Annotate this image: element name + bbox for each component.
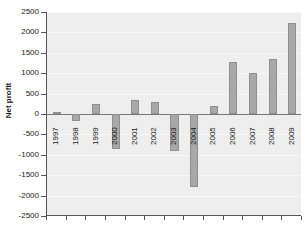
y-axis-tick-label: -2500 (0, 212, 39, 220)
x-axis-tick-label: 2004 (190, 127, 198, 145)
y-axis-tick-label: 2500 (0, 8, 39, 16)
gridline (47, 32, 301, 33)
gridline (47, 175, 301, 176)
bar (151, 102, 159, 114)
x-axis-tick-label: 1997 (52, 127, 60, 145)
x-axis-tick-label: 2009 (288, 127, 296, 145)
y-axis-tick-label: 2000 (0, 28, 39, 36)
gridline (47, 73, 301, 74)
x-axis-tick (301, 216, 302, 220)
bar-chart: Net profit 25002000150010005000-500-1000… (0, 0, 307, 228)
x-axis-tick-label: 2005 (209, 127, 217, 145)
x-axis-tick (262, 216, 263, 220)
y-axis-tick-label: -500 (0, 130, 39, 138)
x-axis-tick (85, 216, 86, 220)
x-axis-tick-label: 2003 (170, 127, 178, 145)
bar (269, 59, 277, 114)
gridline (47, 12, 301, 13)
gridline (47, 94, 301, 95)
bar (249, 73, 257, 114)
x-axis-tick-label: 1998 (72, 127, 80, 145)
x-axis-tick-label: 2002 (150, 127, 158, 145)
y-axis-tick-label: -1500 (0, 171, 39, 179)
bar (72, 114, 80, 121)
x-axis-tick (105, 216, 106, 220)
y-axis-tick-label: 0 (0, 110, 39, 118)
y-axis-tick-label: 1000 (0, 69, 39, 77)
x-axis-tick (223, 216, 224, 220)
gridline (47, 53, 301, 54)
bar (288, 23, 296, 114)
x-axis-tick-label: 2001 (131, 127, 139, 145)
y-axis-tick-label: -1000 (0, 151, 39, 159)
y-axis-tick-label: -2000 (0, 192, 39, 200)
x-axis-tick-label: 2008 (268, 127, 276, 145)
bar (131, 100, 139, 114)
x-axis-tick-label: 1999 (92, 127, 100, 145)
x-axis-tick (144, 216, 145, 220)
x-axis-tick-label: 2000 (111, 127, 119, 145)
bar (53, 112, 61, 114)
gridline (47, 155, 301, 156)
x-axis-tick (46, 216, 47, 220)
x-axis-tick-label: 2007 (249, 127, 257, 145)
bar (190, 114, 198, 187)
y-axis-tick-label: 500 (0, 90, 39, 98)
x-axis-tick (203, 216, 204, 220)
bar (92, 104, 100, 114)
plot-area (46, 12, 301, 216)
x-axis-tick-label: 2006 (229, 127, 237, 145)
x-axis-tick (242, 216, 243, 220)
y-axis-tick-label: 1500 (0, 49, 39, 57)
x-axis-tick (66, 216, 67, 220)
gridline (47, 196, 301, 197)
x-axis-tick (125, 216, 126, 220)
bar (210, 106, 218, 114)
x-axis-tick (183, 216, 184, 220)
bar (229, 62, 237, 114)
x-axis-tick (281, 216, 282, 220)
x-axis-tick (164, 216, 165, 220)
